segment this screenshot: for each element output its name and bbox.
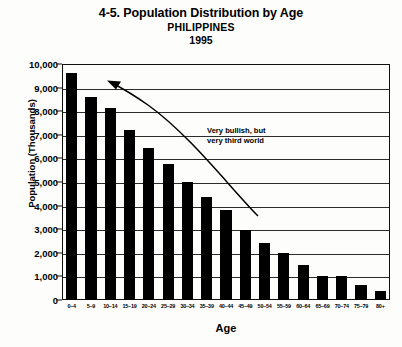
x-tick-label: 0–4 [67, 303, 75, 309]
bar [201, 197, 212, 300]
bar [163, 164, 174, 300]
bar [298, 265, 309, 300]
x-tick-label: 70–74 [335, 303, 349, 309]
bar [375, 291, 386, 300]
x-tick-label: 40–44 [219, 303, 233, 309]
bar [336, 276, 347, 300]
bar [220, 210, 231, 300]
bar-series [62, 64, 390, 300]
x-tick-label: 10–14 [103, 303, 117, 309]
x-tick-label: 45–49 [238, 303, 252, 309]
y-tick-label: 1,000 [6, 271, 58, 282]
bar [143, 148, 154, 300]
y-tick-label: 6,000 [6, 153, 58, 164]
bar [240, 230, 251, 300]
bar [182, 182, 193, 300]
y-tick-label: 0 [6, 295, 58, 306]
y-tick-label: 8,000 [6, 106, 58, 117]
x-tick-label: 15–19 [123, 303, 137, 309]
chart-subtitle-year: 1995 [0, 34, 402, 47]
bar [105, 108, 116, 300]
chart-figure: 4-5. Population Distribution by Age PHIL… [0, 0, 402, 347]
y-tick-label: 10,000 [6, 59, 58, 70]
x-tick-label: 35–39 [200, 303, 214, 309]
bar [259, 243, 270, 300]
chart-annotation-text: Very bullish, but very third world [207, 126, 266, 145]
bar [355, 285, 366, 300]
x-tick-label: 25–29 [161, 303, 175, 309]
y-tick-label: 4,000 [6, 200, 58, 211]
page-title: 4-5. Population Distribution by Age [0, 6, 402, 21]
x-tick-label: 5–9 [87, 303, 95, 309]
x-tick-label: 30–34 [180, 303, 194, 309]
x-axis-title: Age [62, 322, 390, 334]
x-tick-label: 65–69 [315, 303, 329, 309]
x-tick-label: 55–59 [277, 303, 291, 309]
bar [317, 276, 328, 300]
y-tick-label: 9,000 [6, 82, 58, 93]
y-tick-label: 2,000 [6, 247, 58, 258]
x-tick-label: 80+ [376, 303, 385, 309]
y-tick-label: 7,000 [6, 129, 58, 140]
annotation-line-1: Very bullish, but [207, 126, 266, 136]
bar [66, 73, 77, 300]
bar [124, 130, 135, 300]
chart-subtitle-country: PHILIPPINES [0, 21, 402, 34]
x-tick-label: 60–64 [296, 303, 310, 309]
y-tick-label: 5,000 [6, 177, 58, 188]
chart-title-block: 4-5. Population Distribution by Age PHIL… [0, 6, 402, 47]
annotation-line-2: very third world [207, 136, 266, 146]
x-tick-label: 50–54 [258, 303, 272, 309]
bar [85, 97, 96, 300]
x-tick-label: 75–79 [354, 303, 368, 309]
bar [278, 253, 289, 300]
x-tick-label: 20–24 [142, 303, 156, 309]
y-tick-label: 3,000 [6, 224, 58, 235]
